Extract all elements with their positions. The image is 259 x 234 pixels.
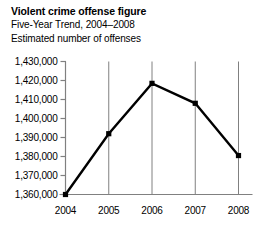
x-tick-label-2005: 2005 bbox=[89, 206, 129, 216]
y-tick-label-1430000: 1,430,000 bbox=[15, 57, 58, 67]
y-tick-label-1380000: 1,380,000 bbox=[15, 152, 58, 162]
x-tick-label-2008: 2008 bbox=[219, 206, 259, 216]
x-tick-label-2007: 2007 bbox=[175, 206, 215, 216]
y-tick-label-1400000: 1,400,000 bbox=[15, 114, 58, 124]
data-point-2005 bbox=[106, 131, 111, 136]
line-chart: 1,360,0001,370,0001,380,0001,390,0001,40… bbox=[0, 0, 259, 234]
y-tick-label-1370000: 1,370,000 bbox=[15, 171, 58, 181]
x-tick-label-2004: 2004 bbox=[46, 206, 86, 216]
y-tick-label-1390000: 1,390,000 bbox=[15, 133, 58, 143]
data-point-2007 bbox=[193, 101, 198, 106]
data-point-2004 bbox=[63, 192, 68, 197]
y-tick-label-1420000: 1,420,000 bbox=[15, 76, 58, 86]
violent-crime-figure: Violent crime offense figure Five-Year T… bbox=[0, 0, 259, 234]
data-point-2006 bbox=[149, 81, 154, 86]
x-tick-label-2006: 2006 bbox=[132, 206, 172, 216]
y-tick-label-1360000: 1,360,000 bbox=[15, 190, 58, 200]
data-point-2008 bbox=[236, 153, 241, 158]
y-tick-label-1410000: 1,410,000 bbox=[15, 95, 58, 105]
